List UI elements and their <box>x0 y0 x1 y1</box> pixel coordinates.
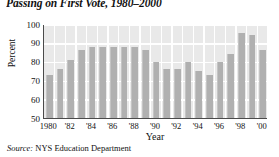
plot-wrapper <box>43 25 267 119</box>
bar <box>89 47 96 118</box>
bar <box>206 75 213 118</box>
bar <box>142 50 149 118</box>
bar <box>78 50 85 118</box>
y-tick-label: 60 <box>14 96 40 105</box>
bar <box>163 69 170 118</box>
bar-chart-figure: Passing on First Vote, 1980–2000 5060708… <box>0 0 279 157</box>
bar <box>67 60 74 118</box>
bar <box>238 33 245 118</box>
y-tick-label: 90 <box>14 39 40 48</box>
bar <box>195 71 202 118</box>
bar <box>121 47 128 118</box>
y-tick-label: 70 <box>14 77 40 86</box>
bar <box>185 62 192 118</box>
bar <box>227 54 234 118</box>
bar <box>57 69 64 118</box>
bar <box>217 62 224 118</box>
source-note: Source: NYS Education Department <box>7 143 131 153</box>
bar <box>131 47 138 118</box>
bar <box>259 50 266 118</box>
y-tick-label: 100 <box>14 21 40 30</box>
bar <box>110 47 117 118</box>
bar <box>174 69 181 118</box>
x-tick-label: '00 <box>248 121 276 131</box>
y-axis-label: Percent <box>7 23 17 83</box>
plot-area <box>43 25 267 119</box>
source-text: NYS Education Department <box>35 143 131 153</box>
bar-series <box>44 25 267 118</box>
chart-title: Passing on First Vote, 1980–2000 <box>6 0 236 10</box>
bar <box>153 62 160 118</box>
bar <box>99 47 106 118</box>
bar <box>249 35 256 118</box>
bar <box>46 75 53 118</box>
source-prefix: Source: <box>7 143 33 153</box>
y-tick-label: 80 <box>14 58 40 67</box>
x-axis-label: Year <box>43 131 267 142</box>
